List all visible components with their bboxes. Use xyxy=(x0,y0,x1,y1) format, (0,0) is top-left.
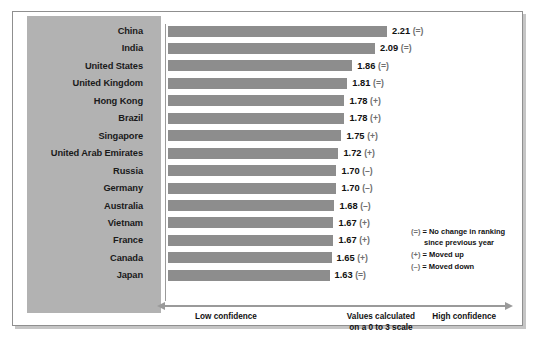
rank-change-marker: (=) xyxy=(355,270,366,280)
table-row: Brazil1.78 (+) xyxy=(13,111,522,128)
country-label: Singapore xyxy=(13,130,143,143)
rank-change-marker: (=) xyxy=(373,78,384,88)
rank-change-marker: (=) xyxy=(401,43,412,53)
table-row: United Arab Emirates1.72 (+) xyxy=(13,146,522,163)
axis-labels: Low confidence Values calculated on a 0 … xyxy=(161,312,516,338)
country-label: India xyxy=(13,42,143,55)
bar-value-label: 2.21 (=) xyxy=(392,25,423,38)
bar xyxy=(168,60,352,71)
rank-change-marker: (–) xyxy=(362,166,373,176)
bar xyxy=(168,43,375,54)
bar xyxy=(168,235,333,246)
country-label: Vietnam xyxy=(13,217,143,230)
legend-minus-text: = Moved down xyxy=(422,262,474,271)
bar-value-label: 1.70 (–) xyxy=(341,182,372,195)
rank-change-marker: (=) xyxy=(378,61,389,71)
bar-value-number: 1.78 xyxy=(349,96,367,106)
bar xyxy=(168,183,336,194)
bar-value-number: 1.81 xyxy=(352,78,370,88)
bar-value-number: 1.70 xyxy=(341,183,359,193)
rank-change-marker: (+) xyxy=(367,131,378,141)
table-row: Russia1.70 (–) xyxy=(13,164,522,181)
bar-value-label: 1.72 (+) xyxy=(343,147,374,160)
bar-value-number: 1.75 xyxy=(346,131,364,141)
legend-plus-symbol: (+) xyxy=(411,250,420,259)
arrow-left-icon xyxy=(157,302,165,310)
table-row: Singapore1.75 (+) xyxy=(13,129,522,146)
rank-change-marker: (+) xyxy=(359,235,370,245)
rank-change-marker: (=) xyxy=(413,26,424,36)
legend-equals-symbol: (=) xyxy=(411,227,420,236)
bar xyxy=(168,165,336,176)
bar xyxy=(168,113,344,124)
country-label: Canada xyxy=(13,252,143,265)
bar xyxy=(168,252,332,263)
bar-value-label: 2.09 (=) xyxy=(380,42,411,55)
axis-label-high: High confidence xyxy=(376,312,510,323)
rank-change-marker: (+) xyxy=(364,148,375,158)
table-row: China2.21 (=) xyxy=(13,24,522,41)
bar xyxy=(168,217,333,228)
bar-value-label: 1.68 (–) xyxy=(339,200,370,213)
country-label: United Arab Emirates xyxy=(13,147,143,160)
legend-item-no-change: (=) = No change in ranking since previou… xyxy=(411,227,531,248)
legend-item-moved-up: (+) = Moved up xyxy=(411,250,531,261)
bar-value-number: 1.70 xyxy=(341,166,359,176)
chart-frame: China2.21 (=)India2.09 (=)United States1… xyxy=(12,11,523,326)
rank-change-marker: (–) xyxy=(362,183,373,193)
table-row: United Kingdom1.81 (=) xyxy=(13,76,522,93)
bar-value-number: 1.67 xyxy=(338,218,356,228)
legend-equals-text: = No change in ranking xyxy=(422,227,505,236)
table-row: Hong Kong1.78 (+) xyxy=(13,94,522,111)
country-label: France xyxy=(13,234,143,247)
table-row: United States1.86 (=) xyxy=(13,59,522,76)
bar-value-number: 2.21 xyxy=(392,26,410,36)
rank-change-marker: (+) xyxy=(370,96,381,106)
country-label: Russia xyxy=(13,165,143,178)
legend: (=) = No change in ranking since previou… xyxy=(411,227,531,274)
country-label: Japan xyxy=(13,269,143,282)
bar-value-number: 1.78 xyxy=(349,113,367,123)
bar-value-label: 1.78 (+) xyxy=(349,112,380,125)
bar xyxy=(168,26,387,37)
legend-plus-text: = Moved up xyxy=(422,250,463,259)
bar-value-number: 1.68 xyxy=(339,201,357,211)
country-label: Hong Kong xyxy=(13,95,143,108)
bar xyxy=(168,95,344,106)
bar-value-label: 1.65 (+) xyxy=(337,252,368,265)
table-row: Germany1.70 (–) xyxy=(13,181,522,198)
legend-item-moved-down: (–) = Moved down xyxy=(411,262,531,273)
table-row: India2.09 (=) xyxy=(13,41,522,58)
country-label: United States xyxy=(13,60,143,73)
legend-minus-symbol: (–) xyxy=(411,262,420,271)
country-label: United Kingdom xyxy=(13,77,143,90)
bar-value-number: 2.09 xyxy=(380,43,398,53)
bar xyxy=(168,200,334,211)
axis-label-mid-line2: on a 0 to 3 scale xyxy=(349,323,412,332)
bar-value-number: 1.65 xyxy=(337,253,355,263)
bar-value-label: 1.63 (=) xyxy=(335,269,366,282)
bar-value-number: 1.63 xyxy=(335,270,353,280)
bar xyxy=(168,270,330,281)
bar xyxy=(168,78,347,89)
bar-value-label: 1.86 (=) xyxy=(357,60,388,73)
table-row: Australia1.68 (–) xyxy=(13,199,522,216)
rank-change-marker: (+) xyxy=(359,218,370,228)
bar xyxy=(168,130,341,141)
bar-value-label: 1.75 (+) xyxy=(346,130,377,143)
bar-value-label: 1.67 (+) xyxy=(338,234,369,247)
rank-change-marker: (+) xyxy=(370,113,381,123)
rank-change-marker: (–) xyxy=(360,201,371,211)
bar-value-label: 1.78 (+) xyxy=(349,95,380,108)
arrow-right-icon xyxy=(505,302,513,310)
axis-label-low: Low confidence xyxy=(169,312,305,323)
country-label: Australia xyxy=(13,200,143,213)
legend-equals-text-line2: since previous year xyxy=(411,238,531,249)
country-label: Germany xyxy=(13,182,143,195)
bar xyxy=(168,148,338,159)
confidence-axis xyxy=(165,305,505,307)
country-label: Brazil xyxy=(13,112,143,125)
bar-value-label: 1.81 (=) xyxy=(352,77,383,90)
rank-change-marker: (+) xyxy=(357,253,368,263)
country-label: China xyxy=(13,25,143,38)
